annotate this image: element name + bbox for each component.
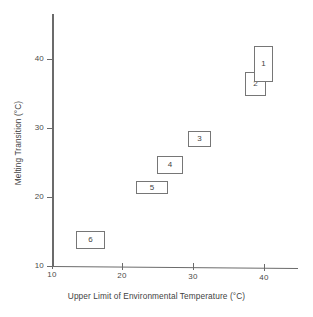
x-tick-10 [52,262,53,269]
data-box-3-label: 3 [189,135,210,143]
y-axis-title: Melting Transition (°C) [13,63,23,223]
y-axis-line [52,14,54,267]
y-tick-40 [47,59,53,60]
data-box-1-label: 1 [255,60,272,68]
data-box-5: 5 [136,181,168,194]
scatter-plot-figure: 10 20 30 40 10 20 30 40 Upper Limit of E… [0,0,313,317]
y-tick-30 [47,128,53,129]
x-tick-label-30: 30 [181,272,205,281]
y-tick-label-40: 40 [22,54,44,63]
data-box-4-label: 4 [158,161,182,169]
data-box-1: 1 [254,46,273,82]
y-tick-label-20: 20 [22,192,44,201]
y-tick-label-10: 10 [22,261,44,270]
x-tick-label-10: 10 [40,270,64,279]
x-tick-20 [122,263,123,270]
x-tick-40 [264,264,265,271]
x-tick-label-40: 40 [252,273,276,282]
data-box-6-label: 6 [77,236,104,244]
y-tick-label-30: 30 [22,123,44,132]
x-tick-label-20: 20 [110,271,134,280]
x-tick-30 [193,263,194,270]
data-box-5-label: 5 [137,184,167,192]
y-tick-20 [47,197,53,198]
x-axis-line [52,266,298,269]
data-box-6: 6 [76,231,105,249]
x-axis-title: Upper Limit of Environmental Temperature… [0,291,313,301]
data-box-3: 3 [188,131,211,147]
data-box-4: 4 [157,156,183,174]
